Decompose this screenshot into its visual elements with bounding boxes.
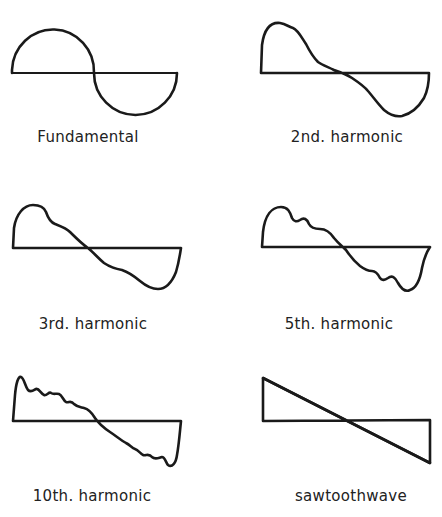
panel-3rd-harmonic-waveform [13, 205, 181, 289]
panel-10th-harmonic-waveform [13, 377, 181, 466]
panel-5th-harmonic-waveform [262, 207, 430, 291]
label-sawtooth-wave: sawtoothwave [295, 487, 407, 505]
panel-fundamental-waveform [12, 29, 177, 115]
10th-harmonic-wave [13, 377, 181, 466]
label-10th-harmonic: 10th. harmonic [33, 487, 152, 505]
harmonics-diagram [0, 0, 442, 517]
label-2nd-harmonic: 2nd. harmonic [291, 128, 403, 146]
label-5th-harmonic: 5th. harmonic [285, 315, 394, 333]
label-3rd-harmonic: 3rd. harmonic [39, 315, 148, 333]
2nd-harmonic-wave [261, 23, 429, 116]
panel-sawtooth-waveform [263, 378, 430, 463]
3rd-harmonic-wave [13, 205, 181, 289]
label-fundamental: Fundamental [37, 128, 138, 146]
panel-2nd-harmonic-waveform [261, 23, 429, 116]
5th-harmonic-wave [262, 207, 430, 291]
